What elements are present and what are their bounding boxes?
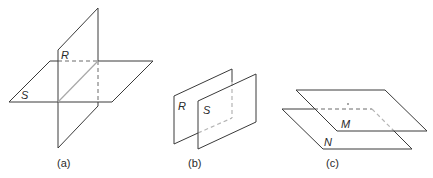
point-marker xyxy=(347,103,349,105)
planes-figure: R S (a) R S (b) xyxy=(0,0,433,178)
plane-r-vertical xyxy=(58,8,98,148)
panel-a: R S (a) xyxy=(9,8,153,169)
caption-a: (a) xyxy=(57,157,70,169)
caption-b: (b) xyxy=(188,157,201,169)
panel-b: R S (b) xyxy=(174,69,256,169)
plane-label-s: S xyxy=(21,89,29,101)
plane-label-s: S xyxy=(203,104,211,116)
plane-s-horizontal xyxy=(9,61,153,102)
caption-c: (c) xyxy=(326,157,339,169)
intersection-line xyxy=(58,61,98,102)
plane-label-m: M xyxy=(341,118,351,130)
plane-label-r: R xyxy=(178,100,186,112)
plane-label-n: N xyxy=(324,136,332,148)
plane-m-upper xyxy=(296,90,427,131)
plane-label-r: R xyxy=(61,49,69,61)
panel-c: M N (c) xyxy=(282,90,427,169)
